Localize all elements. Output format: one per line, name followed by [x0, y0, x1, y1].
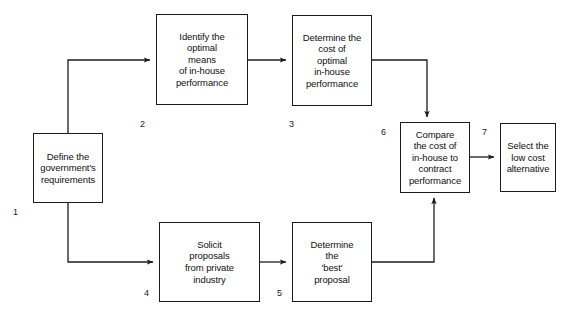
node-determine-inhouse-cost[interactable]: Determine the cost of optimal in-house p… [292, 15, 372, 106]
node-5-text: Determine the 'best' proposal [311, 239, 354, 285]
node-1-text: Define the government's requirements [40, 151, 96, 186]
node-define-requirements[interactable]: Define the government's requirements [33, 133, 103, 203]
connector-1-to-4 [68, 203, 153, 262]
node-identify-optimal-means[interactable]: Identify the optimal means of in-house p… [156, 14, 248, 105]
node-1-number: 1 [13, 207, 18, 217]
node-determine-best-proposal[interactable]: Determine the 'best' proposal [292, 222, 372, 302]
connector-5-to-6 [372, 198, 434, 262]
node-6-number: 6 [381, 127, 386, 137]
node-6-text: Compare the cost of in-house to contract… [409, 129, 461, 187]
node-3-text: Determine the cost of optimal in-house p… [303, 32, 361, 90]
node-5-number: 5 [277, 288, 282, 298]
node-2-text: Identify the optimal means of in-house p… [176, 31, 228, 89]
connector-1-to-2 [68, 60, 150, 133]
node-7-text: Select the low cost alternative [507, 140, 550, 175]
node-4-number: 4 [144, 288, 149, 298]
node-compare-costs[interactable]: Compare the cost of in-house to contract… [400, 122, 470, 193]
node-2-number: 2 [140, 119, 145, 129]
node-3-number: 3 [289, 119, 294, 129]
flowchart-canvas: Define the government's requirements 1 I… [0, 0, 572, 315]
node-select-low-cost[interactable]: Select the low cost alternative [500, 123, 556, 192]
node-4-text: Solicit proposals from private industry [185, 239, 234, 285]
node-7-number: 7 [482, 127, 487, 137]
node-solicit-proposals[interactable]: Solicit proposals from private industry [159, 222, 260, 302]
connector-3-to-6 [372, 60, 427, 117]
